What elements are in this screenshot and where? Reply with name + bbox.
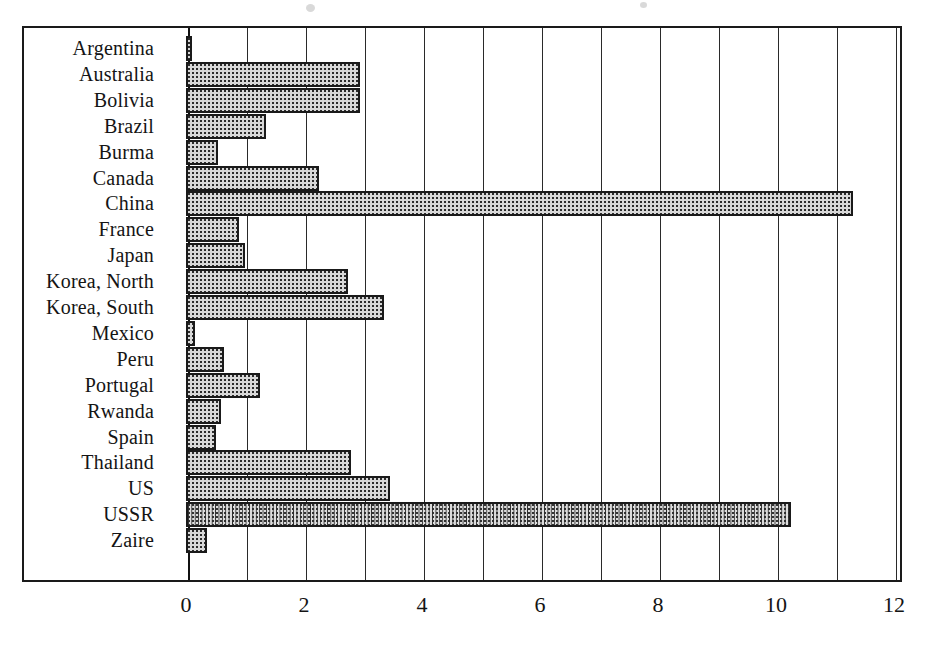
bar-row: Bolivia [22, 88, 902, 113]
category-label: China [0, 191, 154, 216]
x-tick-label: 8 [628, 592, 688, 618]
bars-area: ArgentinaAustraliaBoliviaBrazilBurmaCana… [22, 26, 902, 582]
bar-row: Korea, North [22, 269, 902, 294]
bar-row: France [22, 217, 902, 242]
category-label: Zaire [0, 528, 154, 553]
bar-row: Thailand [22, 450, 902, 475]
bar [186, 243, 245, 268]
category-label: Australia [0, 62, 154, 87]
bar [186, 166, 319, 191]
bar-row: Argentina [22, 36, 902, 61]
bar-row: US [22, 476, 902, 501]
bar-row: Canada [22, 166, 902, 191]
x-tick-label: 4 [392, 592, 452, 618]
bar-row: Japan [22, 243, 902, 268]
bar [186, 62, 360, 87]
bar [186, 269, 348, 294]
bar-row: China [22, 191, 902, 216]
category-label: Mexico [0, 321, 154, 346]
category-label: Korea, South [0, 295, 154, 320]
bar [186, 425, 216, 450]
bar [186, 373, 260, 398]
bar [186, 450, 351, 475]
bar-row: Mexico [22, 321, 902, 346]
bar [186, 140, 218, 165]
scan-artifact [306, 4, 315, 12]
x-tick-label: 6 [510, 592, 570, 618]
bar-row: Korea, South [22, 295, 902, 320]
bar [186, 295, 384, 320]
category-label: Peru [0, 347, 154, 372]
bar-row: Rwanda [22, 399, 902, 424]
bar [186, 114, 266, 139]
category-label: Burma [0, 140, 154, 165]
bar-row: Zaire [22, 528, 902, 553]
bar-row: Peru [22, 347, 902, 372]
category-label: Brazil [0, 114, 154, 139]
bar [186, 191, 853, 216]
bar [186, 88, 360, 113]
x-tick-label: 10 [746, 592, 806, 618]
bar-row: Portugal [22, 373, 902, 398]
category-label: Spain [0, 425, 154, 450]
bar [186, 476, 390, 501]
x-tick-label: 2 [274, 592, 334, 618]
bar [186, 528, 207, 553]
bar [186, 502, 791, 527]
bar [186, 321, 195, 346]
category-label: Bolivia [0, 88, 154, 113]
category-label: Canada [0, 166, 154, 191]
bar-chart: ArgentinaAustraliaBoliviaBrazilBurmaCana… [0, 0, 932, 648]
bar-row: Burma [22, 140, 902, 165]
x-tick-label: 12 [864, 592, 924, 618]
category-label: Argentina [0, 36, 154, 61]
category-label: Korea, North [0, 269, 154, 294]
bar [186, 36, 192, 61]
category-label: France [0, 217, 154, 242]
category-label: US [0, 476, 154, 501]
category-label: Thailand [0, 450, 154, 475]
scan-artifact [640, 2, 647, 8]
x-tick-label: 0 [156, 592, 216, 618]
bar [186, 347, 224, 372]
bar [186, 217, 239, 242]
category-label: USSR [0, 502, 154, 527]
category-label: Japan [0, 243, 154, 268]
category-label: Portugal [0, 373, 154, 398]
bar-row: Australia [22, 62, 902, 87]
bar-row: USSR [22, 502, 902, 527]
bar-row: Brazil [22, 114, 902, 139]
category-label: Rwanda [0, 399, 154, 424]
bar-row: Spain [22, 425, 902, 450]
bar [186, 399, 221, 424]
